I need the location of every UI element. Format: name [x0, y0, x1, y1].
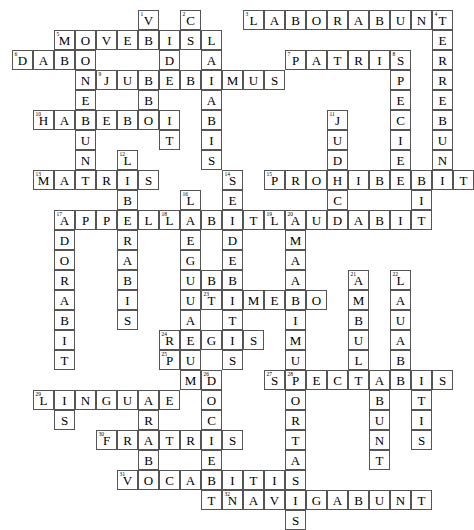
crossword-cell[interactable]: B — [348, 310, 369, 330]
crossword-cell[interactable]: I — [117, 170, 138, 190]
crossword-cell[interactable]: G — [201, 330, 222, 350]
crossword-cell[interactable]: B — [138, 30, 159, 50]
crossword-cell[interactable]: B — [285, 290, 306, 310]
crossword-cell[interactable]: 26D — [201, 370, 222, 390]
crossword-cell[interactable]: I — [54, 390, 75, 410]
crossword-cell[interactable]: E — [117, 30, 138, 50]
crossword-cell[interactable]: U — [285, 350, 306, 370]
crossword-cell[interactable]: I — [369, 50, 390, 70]
crossword-cell[interactable]: G — [306, 490, 327, 510]
crossword-cell[interactable]: E — [117, 210, 138, 230]
crossword-cell[interactable]: P — [390, 70, 411, 90]
crossword-cell[interactable]: 27S — [264, 370, 285, 390]
crossword-cell[interactable]: B — [348, 490, 369, 510]
crossword-cell[interactable]: S — [222, 350, 243, 370]
crossword-cell[interactable]: M — [285, 330, 306, 350]
crossword-cell[interactable]: I — [201, 430, 222, 450]
crossword-cell[interactable]: 32N — [222, 490, 243, 510]
crossword-cell[interactable]: O — [75, 30, 96, 50]
crossword-cell[interactable]: U — [390, 310, 411, 330]
crossword-cell[interactable]: I — [285, 490, 306, 510]
crossword-cell[interactable]: C — [327, 190, 348, 210]
crossword-cell[interactable]: T — [201, 490, 222, 510]
crossword-cell[interactable]: I — [222, 210, 243, 230]
crossword-cell[interactable]: R — [117, 430, 138, 450]
crossword-cell[interactable]: C — [327, 370, 348, 390]
crossword-cell[interactable]: I — [432, 170, 453, 190]
crossword-cell[interactable]: T — [75, 170, 96, 190]
crossword-cell[interactable]: N — [369, 430, 390, 450]
crossword-cell[interactable]: A — [369, 370, 390, 390]
crossword-cell[interactable]: R — [285, 170, 306, 190]
crossword-cell[interactable]: U — [180, 350, 201, 370]
crossword-cell[interactable]: B — [390, 370, 411, 390]
crossword-cell[interactable]: 3L — [243, 10, 264, 30]
crossword-cell[interactable]: U — [243, 70, 264, 90]
crossword-cell[interactable]: U — [369, 490, 390, 510]
crossword-cell[interactable]: S — [222, 430, 243, 450]
crossword-cell[interactable]: 10H — [33, 110, 54, 130]
crossword-cell[interactable]: S — [243, 330, 264, 350]
crossword-cell[interactable]: I — [201, 70, 222, 90]
crossword-cell[interactable]: E — [390, 170, 411, 190]
crossword-cell[interactable]: T — [243, 470, 264, 490]
crossword-cell[interactable]: M — [285, 230, 306, 250]
crossword-cell[interactable]: O — [201, 390, 222, 410]
crossword-cell[interactable]: S — [285, 470, 306, 490]
crossword-cell[interactable]: V — [264, 490, 285, 510]
crossword-cell[interactable]: B — [54, 310, 75, 330]
crossword-cell[interactable]: A — [243, 490, 264, 510]
crossword-cell[interactable]: E — [201, 450, 222, 470]
crossword-cell[interactable]: E — [180, 330, 201, 350]
crossword-cell[interactable]: U — [180, 270, 201, 290]
crossword-cell[interactable]: A — [54, 290, 75, 310]
crossword-cell[interactable]: E — [159, 390, 180, 410]
crossword-cell[interactable]: T — [243, 210, 264, 230]
crossword-cell[interactable]: I — [54, 330, 75, 350]
crossword-cell[interactable]: R — [327, 10, 348, 30]
crossword-cell[interactable]: B — [201, 270, 222, 290]
crossword-cell[interactable]: R — [180, 430, 201, 450]
crossword-cell[interactable]: M — [180, 370, 201, 390]
crossword-cell[interactable]: N — [411, 10, 432, 30]
crossword-cell[interactable]: I — [201, 130, 222, 150]
crossword-cell[interactable]: O — [306, 290, 327, 310]
crossword-cell[interactable]: U — [432, 130, 453, 150]
crossword-cell[interactable]: T — [369, 450, 390, 470]
crossword-cell[interactable]: R — [432, 70, 453, 90]
crossword-cell[interactable]: 14S — [222, 170, 243, 190]
crossword-cell[interactable]: T — [411, 390, 432, 410]
crossword-cell[interactable]: R — [96, 170, 117, 190]
crossword-cell[interactable]: A — [348, 10, 369, 30]
crossword-cell[interactable]: E — [222, 190, 243, 210]
crossword-cell[interactable]: U — [306, 210, 327, 230]
crossword-cell[interactable]: R — [54, 270, 75, 290]
crossword-cell[interactable]: S — [264, 70, 285, 90]
crossword-cell[interactable]: O — [54, 250, 75, 270]
crossword-cell[interactable]: B — [369, 390, 390, 410]
crossword-cell[interactable]: E — [432, 30, 453, 50]
crossword-cell[interactable]: R — [138, 410, 159, 430]
crossword-cell[interactable]: G — [180, 250, 201, 270]
crossword-cell[interactable]: E — [432, 90, 453, 110]
crossword-cell[interactable]: 25P — [159, 350, 180, 370]
crossword-cell[interactable]: H — [327, 170, 348, 190]
crossword-cell[interactable]: S — [54, 410, 75, 430]
crossword-cell[interactable]: A — [33, 50, 54, 70]
crossword-cell[interactable]: S — [138, 170, 159, 190]
crossword-cell[interactable]: T — [159, 430, 180, 450]
crossword-cell[interactable]: B — [54, 50, 75, 70]
crossword-cell[interactable]: B — [432, 110, 453, 130]
crossword-cell[interactable]: B — [75, 110, 96, 130]
crossword-cell[interactable]: T — [285, 430, 306, 450]
crossword-cell[interactable]: B — [285, 10, 306, 30]
crossword-cell[interactable]: 11J — [327, 110, 348, 130]
crossword-cell[interactable]: N — [432, 150, 453, 170]
crossword-cell[interactable]: A — [54, 110, 75, 130]
crossword-cell[interactable]: I — [264, 470, 285, 490]
crossword-cell[interactable]: 6D — [12, 50, 33, 70]
crossword-cell[interactable]: 28P — [285, 370, 306, 390]
crossword-cell[interactable]: N — [75, 150, 96, 170]
crossword-cell[interactable]: U — [390, 10, 411, 30]
crossword-cell[interactable]: B — [369, 170, 390, 190]
